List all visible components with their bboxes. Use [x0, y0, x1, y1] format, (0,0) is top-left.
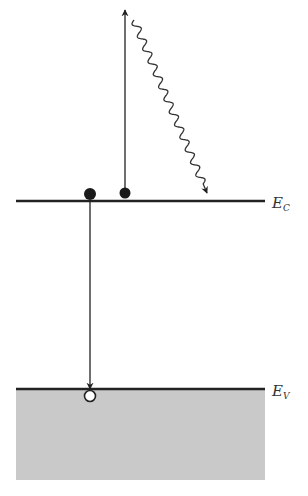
valence-band-subscript: V — [283, 391, 290, 401]
electron-dot-excited — [120, 188, 131, 199]
valence-band-label: EV — [272, 384, 289, 401]
hole-circle — [85, 391, 96, 402]
valence-band-region — [16, 389, 265, 480]
phonon-relaxation-wavy-arrow — [132, 20, 207, 193]
conduction-band-label: EC — [272, 196, 290, 213]
conduction-band-subscript: C — [283, 203, 290, 213]
band-diagram — [0, 0, 308, 496]
valence-band-symbol: E — [272, 382, 283, 400]
electron-dot-recombining — [84, 188, 96, 200]
conduction-band-symbol: E — [272, 194, 283, 212]
